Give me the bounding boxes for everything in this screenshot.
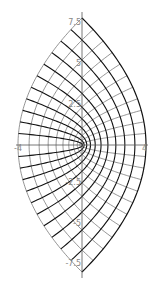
x-tick-label: 4 (142, 144, 147, 153)
y-tick-label: 7.5 (68, 18, 81, 27)
y-tick-label: 5 (76, 59, 81, 68)
axes (16, 12, 148, 278)
grid-curve-v (29, 30, 93, 145)
grid-curve-v (29, 145, 93, 260)
parabolic-grid-diagram: 7.552.5-2.5-5-7.5-44 (0, 0, 158, 288)
y-tick-label: -5 (73, 219, 81, 228)
y-tick-label: -7.5 (65, 259, 81, 268)
grid-curve-v (18, 18, 82, 145)
x-tick-label: -4 (14, 144, 22, 153)
y-tick-label: 2.5 (68, 100, 81, 109)
grid-curve-v (18, 145, 82, 272)
y-tick-label: -2.5 (65, 178, 81, 187)
